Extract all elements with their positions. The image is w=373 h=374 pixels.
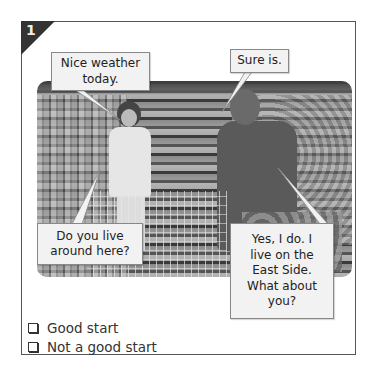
speech-bubble-man-1: Sure is. <box>230 49 289 73</box>
checkbox[interactable] <box>28 323 38 333</box>
speech-bubble-man-2: Yes, I do. I live on the East Side. What… <box>230 223 334 319</box>
speech-bubble-woman-1: Nice weather today. <box>51 52 150 91</box>
option-label: Good start <box>47 320 118 336</box>
option-label: Not a good start <box>47 339 157 355</box>
option-good-start[interactable]: Good start <box>27 318 157 337</box>
checkbox[interactable] <box>28 342 38 352</box>
option-not-good-start[interactable]: Not a good start <box>27 337 157 356</box>
speech-bubble-woman-2: Do you live around here? <box>37 223 143 265</box>
answer-options: Good start Not a good start <box>27 318 157 356</box>
